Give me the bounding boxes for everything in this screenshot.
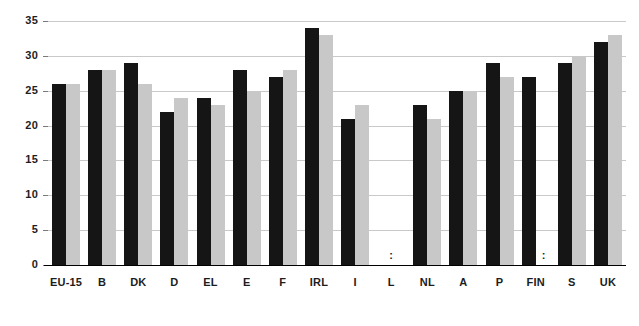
missing-value-marker-l: : (386, 250, 396, 260)
y-axis-label-10: 10 (8, 189, 38, 200)
bar-el-series-1 (197, 98, 211, 265)
bar-i-series-2 (355, 105, 369, 265)
y-axis-label-30: 30 (8, 50, 38, 61)
bar-b-series-2 (102, 70, 116, 265)
bar-a-series-1 (449, 91, 463, 265)
y-tick-mark-5 (43, 230, 48, 231)
bar-uk-series-2 (608, 35, 622, 265)
bar-fin-series-1 (522, 77, 536, 265)
y-axis-label-15: 15 (8, 154, 38, 165)
bar-s-series-1 (558, 63, 572, 265)
bar-eu-15-series-2 (66, 84, 80, 265)
bar-uk-series-1 (594, 42, 608, 265)
y-tick-mark-30 (43, 56, 48, 57)
bar-a-series-2 (463, 91, 477, 265)
gridline-35 (48, 21, 626, 22)
bar-e-series-2 (247, 91, 261, 265)
y-axis-label-0: 0 (8, 259, 38, 270)
missing-value-marker-fin: : (539, 250, 549, 260)
bar-irl-series-1 (305, 28, 319, 265)
bar-i-series-1 (341, 119, 355, 265)
y-axis-label-5: 5 (8, 224, 38, 235)
y-tick-mark-10 (43, 195, 48, 196)
y-tick-mark-20 (43, 126, 48, 127)
y-axis-label-25: 25 (8, 85, 38, 96)
bar-chart: 05101520253035 :: EU-15BDKDELEFIRLILNLAP… (0, 0, 639, 326)
bar-e-series-1 (233, 70, 247, 265)
y-axis-label-20: 20 (8, 120, 38, 131)
bar-nl-series-1 (413, 105, 427, 265)
bar-f-series-1 (269, 77, 283, 265)
bar-dk-series-1 (124, 63, 138, 265)
bar-eu-15-series-1 (52, 84, 66, 265)
bar-p-series-1 (486, 63, 500, 265)
bar-p-series-2 (500, 77, 514, 265)
x-axis-line (44, 265, 626, 266)
y-tick-mark-25 (43, 91, 48, 92)
y-tick-mark-15 (43, 160, 48, 161)
bar-f-series-2 (283, 70, 297, 265)
y-tick-mark-35 (43, 21, 48, 22)
x-axis-label-uk: UK (583, 276, 633, 288)
bar-b-series-1 (88, 70, 102, 265)
y-axis-label-35: 35 (8, 15, 38, 26)
bar-nl-series-2 (427, 119, 441, 265)
bar-d-series-1 (160, 112, 174, 265)
bar-irl-series-2 (319, 35, 333, 265)
bar-s-series-2 (572, 56, 586, 265)
gridline-30 (48, 56, 626, 57)
bar-dk-series-2 (138, 84, 152, 265)
bar-el-series-2 (211, 105, 225, 265)
bar-d-series-2 (174, 98, 188, 265)
